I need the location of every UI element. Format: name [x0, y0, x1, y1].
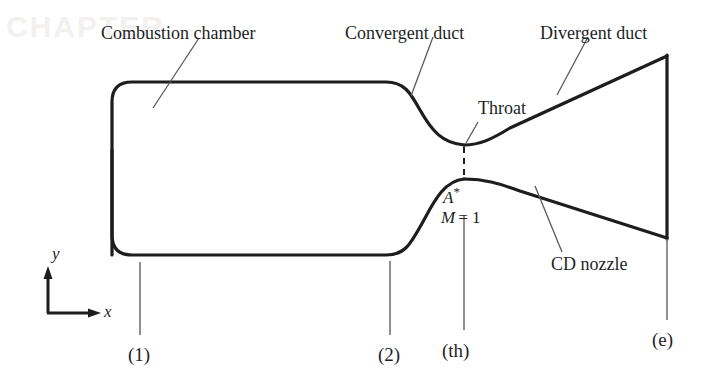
label-y-axis: y	[52, 245, 60, 262]
mach-symbol: M	[441, 208, 455, 227]
area-star-symbol: A	[443, 188, 453, 207]
label-x-axis: x	[104, 303, 112, 320]
label-divergent-duct: Divergent duct	[540, 24, 647, 42]
leader-line-combustion-chamber	[153, 38, 199, 108]
leader-line-cd-nozzle	[535, 186, 562, 252]
station-label-2: (2)	[378, 345, 400, 364]
area-star-superscript: *	[453, 184, 460, 199]
leader-line-divergent-duct	[557, 37, 588, 95]
divergent-lower-wall-path	[464, 179, 667, 238]
station-label-throat: (th)	[442, 341, 469, 360]
label-mach-one: M= 1	[441, 209, 481, 226]
label-throat: Throat	[478, 99, 526, 117]
label-area-star: A*	[443, 185, 460, 206]
mach-value: = 1	[458, 208, 480, 227]
nozzle-geometry-svg	[0, 0, 709, 385]
label-convergent-duct: Convergent duct	[345, 24, 464, 42]
x-axis-arrowhead	[88, 309, 101, 318]
label-cd-nozzle: CD nozzle	[551, 255, 627, 273]
leader-line-throat	[466, 122, 478, 143]
label-combustion-chamber: Combustion chamber	[101, 24, 255, 42]
chamber-lower-wall-path	[112, 150, 464, 255]
y-axis-arrowhead	[44, 266, 53, 279]
station-label-1: (1)	[128, 345, 150, 364]
chamber-upper-wall-path	[112, 82, 464, 255]
leader-line-convergent-duct	[411, 37, 433, 96]
figure-canvas: CHAPTER Combust	[0, 0, 709, 385]
coordinate-axes	[44, 266, 102, 318]
station-label-exit: (e)	[652, 330, 673, 349]
